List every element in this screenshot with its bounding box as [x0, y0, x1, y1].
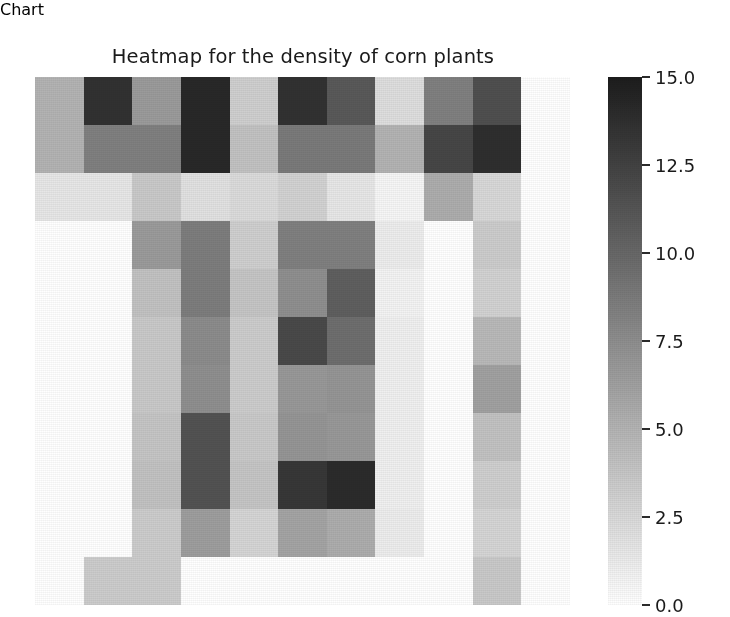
heatmap-cell: [84, 413, 133, 461]
heatmap-cell: [278, 269, 327, 317]
heatmap-cell: [424, 461, 473, 509]
heatmap-cell: [84, 365, 133, 413]
heatmap-cell: [84, 269, 133, 317]
colorbar-tick-mark: [642, 428, 650, 430]
heatmap-cell: [521, 557, 570, 605]
heatmap-cell: [327, 461, 376, 509]
heatmap-cell: [181, 365, 230, 413]
heatmap-cell: [424, 317, 473, 365]
heatmap-cell: [473, 173, 522, 221]
heatmap-cell: [375, 269, 424, 317]
heatmap-cell: [278, 557, 327, 605]
heatmap-cell: [230, 317, 279, 365]
heatmap-cell: [473, 125, 522, 173]
heatmap-cell: [35, 365, 84, 413]
heatmap-cell: [375, 461, 424, 509]
heatmap-cell: [35, 221, 84, 269]
heatmap-cell: [35, 509, 84, 557]
heatmap-cell: [473, 365, 522, 413]
colorbar: [608, 77, 642, 605]
heatmap-cell: [424, 77, 473, 125]
heatmap-cell: [278, 461, 327, 509]
colorbar-tick-mark: [642, 516, 650, 518]
heatmap-cell: [327, 77, 376, 125]
heatmap-cell: [132, 413, 181, 461]
colorbar-tick-label: 5.0: [655, 419, 684, 440]
heatmap-cell: [230, 173, 279, 221]
heatmap-cell: [473, 221, 522, 269]
heatmap-cell: [230, 557, 279, 605]
heatmap-cell: [375, 221, 424, 269]
colorbar-tick-mark: [642, 252, 650, 254]
heatmap-cell: [278, 413, 327, 461]
heatmap-cell: [84, 77, 133, 125]
heatmap-cell: [424, 221, 473, 269]
heatmap-cell: [35, 317, 84, 365]
heatmap-cell: [181, 413, 230, 461]
heatmap-cell: [521, 221, 570, 269]
heatmap-cell: [132, 509, 181, 557]
heatmap-cell: [521, 77, 570, 125]
heatmap-cell: [327, 125, 376, 173]
colorbar-tick-label: 15.0: [655, 67, 695, 88]
heatmap-cell: [327, 269, 376, 317]
heatmap-cell: [84, 557, 133, 605]
heatmap-cell: [230, 77, 279, 125]
heatmap-cell: [521, 509, 570, 557]
heatmap-cell: [132, 221, 181, 269]
heatmap-cell: [84, 125, 133, 173]
heatmap-cell: [181, 173, 230, 221]
heatmap-cell: [521, 461, 570, 509]
heatmap-cell: [35, 461, 84, 509]
heatmap-cell: [181, 77, 230, 125]
heatmap-cell: [84, 173, 133, 221]
heatmap-cell: [181, 125, 230, 173]
heatmap-cell: [181, 317, 230, 365]
heatmap-cell: [84, 317, 133, 365]
heatmap-cell: [132, 461, 181, 509]
colorbar-tick-label: 0.0: [655, 595, 684, 616]
heatmap-cell: [84, 461, 133, 509]
heatmap-cell: [327, 173, 376, 221]
heatmap-cell: [327, 317, 376, 365]
heatmap-cell: [327, 221, 376, 269]
heatmap-cell: [181, 557, 230, 605]
heatmap-cell: [278, 317, 327, 365]
heatmap-cell: [230, 509, 279, 557]
heatmap-cell: [473, 269, 522, 317]
heatmap-cell: [375, 317, 424, 365]
heatmap-cell: [375, 77, 424, 125]
colorbar-tick-mark: [642, 164, 650, 166]
heatmap-cell: [375, 413, 424, 461]
heatmap-cell: [327, 557, 376, 605]
heatmap-cell: [35, 269, 84, 317]
colorbar-tick-label: 10.0: [655, 243, 695, 264]
heatmap-cell: [473, 461, 522, 509]
heatmap-cell: [424, 557, 473, 605]
heatmap-cell: [375, 557, 424, 605]
colorbar-tick-mark: [642, 340, 650, 342]
heatmap-cell: [35, 77, 84, 125]
heatmap-axes: [35, 77, 570, 605]
heatmap-figure: Heatmap for the density of corn plants 1…: [0, 19, 730, 617]
heatmap-cell: [230, 365, 279, 413]
heatmap-cell: [424, 509, 473, 557]
heatmap-cell: [375, 365, 424, 413]
heatmap-cell: [278, 221, 327, 269]
heatmap-cell: [327, 365, 376, 413]
heatmap-cell: [132, 557, 181, 605]
heatmap-cell: [278, 125, 327, 173]
heatmap-cell: [424, 413, 473, 461]
heatmap-grid: [35, 77, 570, 605]
heatmap-cell: [84, 221, 133, 269]
colorbar-tick-label: 7.5: [655, 331, 684, 352]
heatmap-cell: [35, 557, 84, 605]
heatmap-cell: [521, 269, 570, 317]
heatmap-cell: [132, 173, 181, 221]
heatmap-cell: [278, 365, 327, 413]
heatmap-cell: [181, 461, 230, 509]
heatmap-cell: [278, 77, 327, 125]
heatmap-cell: [132, 269, 181, 317]
colorbar-tick-mark: [642, 604, 650, 606]
heatmap-cell: [521, 173, 570, 221]
